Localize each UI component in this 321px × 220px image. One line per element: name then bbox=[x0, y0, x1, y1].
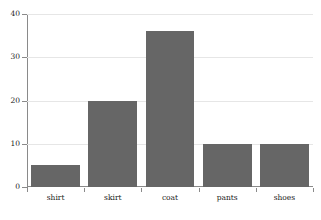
x-tick-2 bbox=[141, 188, 142, 192]
x-tick-label-skirt: skirt bbox=[104, 194, 121, 202]
x-tick-label-shirt: shirt bbox=[47, 194, 65, 202]
x-tick-3 bbox=[199, 188, 200, 192]
bar-pants bbox=[203, 144, 252, 187]
y-tick-label-10: 10 bbox=[0, 140, 20, 148]
plot-area bbox=[27, 14, 313, 187]
bar-chart: 010203040 shirtskirtcoatpantsshoes bbox=[0, 0, 321, 220]
y-tick-40 bbox=[22, 14, 27, 15]
x-tick-1 bbox=[84, 188, 85, 192]
bars-group bbox=[27, 14, 313, 187]
y-tick-30 bbox=[22, 57, 27, 58]
bar-shoes bbox=[260, 144, 309, 187]
x-tick-5 bbox=[313, 188, 314, 192]
y-tick-20 bbox=[22, 101, 27, 102]
bar-skirt bbox=[88, 101, 137, 188]
bar-shirt bbox=[31, 165, 80, 187]
y-tick-label-20: 20 bbox=[0, 97, 20, 105]
y-tick-label-0: 0 bbox=[0, 183, 20, 191]
y-tick-10 bbox=[22, 144, 27, 145]
x-tick-0 bbox=[27, 188, 28, 192]
x-tick-label-coat: coat bbox=[162, 194, 178, 202]
y-tick-label-30: 30 bbox=[0, 53, 20, 61]
x-tick-4 bbox=[256, 188, 257, 192]
x-tick-label-shoes: shoes bbox=[274, 194, 295, 202]
x-tick-label-pants: pants bbox=[217, 194, 238, 202]
y-tick-label-40: 40 bbox=[0, 10, 20, 18]
bar-coat bbox=[146, 31, 195, 187]
